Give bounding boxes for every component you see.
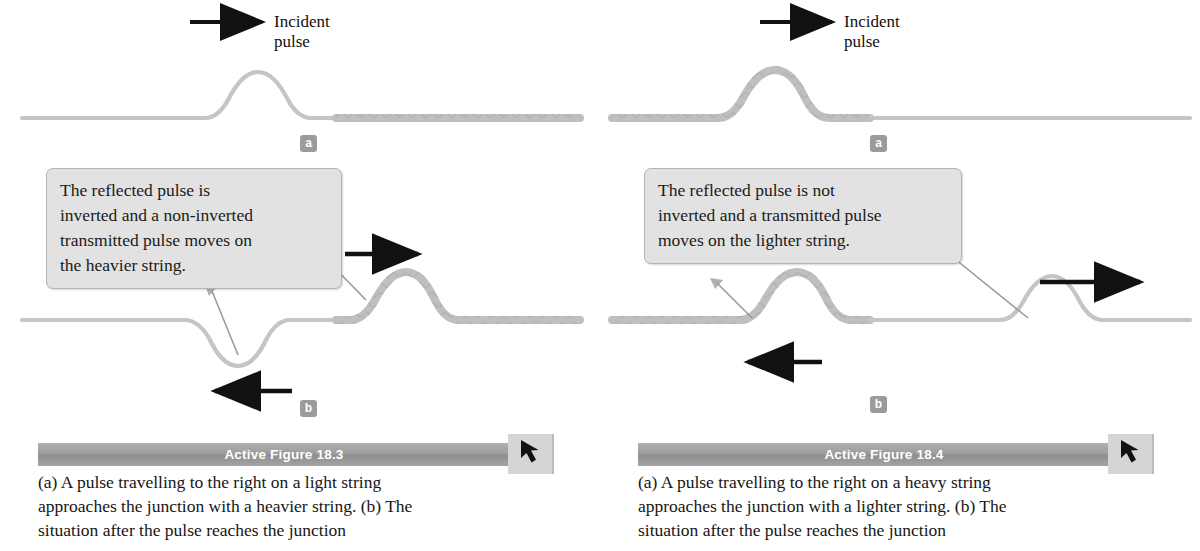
callout-reflected-inverted: The reflected pulse is inverted and a no… [46, 168, 342, 289]
active-figure-launch-tab[interactable] [508, 434, 554, 474]
panel-badge-b: b [300, 400, 317, 417]
caption-block-18-4: Active Figure 18.4 (a) A pulse travellin… [638, 443, 1162, 542]
active-figure-banner-title: Active Figure 18.4 [638, 443, 1130, 466]
callout-reflected-not-inverted: The reflected pulse is not inverted and … [644, 168, 962, 264]
figure-caption-text: (a) A pulse travelling to the right on a… [638, 470, 1162, 542]
figure-caption-text: (a) A pulse travelling to the right on a… [38, 470, 562, 542]
string-heavy-with-transmitted-pulse [336, 272, 580, 320]
panel-badge-b: b [870, 396, 887, 413]
active-figure-banner-row: Active Figure 18.4 [638, 443, 1162, 466]
panel-badge-a: a [870, 135, 887, 152]
incident-pulse-label: Incident pulse [274, 12, 330, 52]
caption-block-18-3: Active Figure 18.3 (a) A pulse travellin… [38, 443, 562, 542]
string-light-with-incident-pulse [22, 72, 336, 118]
string-heavy-with-reflected-noninverted-pulse [612, 272, 870, 320]
active-figure-launch-tab[interactable] [1108, 434, 1154, 474]
active-figure-banner-row: Active Figure 18.3 [38, 443, 562, 466]
panel-badge-a: a [300, 135, 317, 152]
active-figure-banner-title: Active Figure 18.3 [38, 443, 530, 466]
string-heavy-with-incident-pulse [612, 70, 870, 118]
string-light-with-reflected-inverted-pulse [22, 320, 336, 366]
active-figure-18-4: Incident pulse a The reflected pulse is … [600, 0, 1200, 551]
arrow-cursor-icon [508, 434, 552, 474]
active-figure-18-3: Incident pulse a The reflected pulse is … [0, 0, 600, 551]
arrow-cursor-icon [1108, 434, 1152, 474]
string-light-with-transmitted-pulse [870, 276, 1190, 320]
incident-pulse-label: Incident pulse [844, 12, 900, 52]
